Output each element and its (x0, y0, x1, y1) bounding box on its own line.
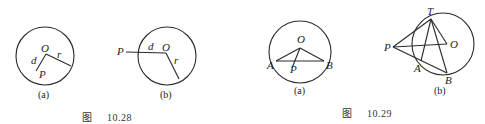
label-b: B (445, 74, 452, 86)
caption-prefix: 图 (82, 112, 93, 123)
label-p: P (383, 41, 391, 53)
label-a: A (266, 59, 274, 71)
segment-ob (300, 48, 324, 61)
caption-number: 10.29 (367, 108, 392, 119)
subfigure-label: (b) (434, 85, 446, 97)
caption-10-28: 图 10.28 (82, 112, 132, 123)
figure-10-28a: O d r P (a) (16, 27, 74, 101)
label-o: O (162, 41, 170, 53)
label-t: T (427, 5, 434, 17)
label-d: d (31, 54, 37, 66)
label-r: r (57, 48, 62, 60)
label-o: O (450, 38, 458, 50)
label-d: d (148, 40, 154, 52)
figure-10-28b: P d O r (b) (116, 27, 196, 101)
caption-number: 10.28 (107, 112, 132, 123)
subfigure-label: (a) (38, 89, 49, 101)
subfigure-label: (b) (160, 89, 172, 101)
label-p: P (38, 68, 46, 80)
segment-to (431, 19, 447, 44)
circle (269, 21, 331, 83)
segment-po (126, 52, 166, 53)
figure-10-29b: T P O A B (b) (383, 5, 474, 97)
geometry-figures: O d r P (a) P d O r (b) 图 10.28 O A P B … (0, 0, 485, 124)
segment-tb (431, 19, 447, 73)
segment-oa (276, 48, 300, 61)
label-r: r (174, 54, 179, 66)
label-o: O (41, 42, 49, 54)
label-p: P (116, 45, 124, 57)
caption-10-29: 图 10.29 (342, 108, 392, 119)
label-a: A (413, 62, 421, 74)
label-b: B (326, 59, 333, 71)
figure-10-29a: O A P B (a) (266, 21, 333, 97)
label-o: O (297, 33, 305, 45)
label-p: P (289, 63, 297, 75)
subfigure-label: (a) (294, 85, 305, 97)
caption-prefix: 图 (342, 108, 353, 119)
